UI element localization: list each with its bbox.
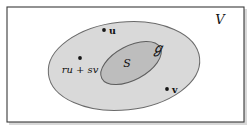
inner-subspace-label: S <box>123 57 131 70</box>
point-u-label: u <box>109 25 116 36</box>
point-u-dot <box>102 28 106 32</box>
outer-subspace-label: ℊ <box>151 40 165 57</box>
point-ru-sv-dot <box>78 56 82 60</box>
ambient-space-label: V <box>215 12 226 27</box>
linear-combination-label: ru + sv <box>62 64 99 75</box>
point-v-dot <box>165 87 169 91</box>
point-v-label: v <box>171 84 178 95</box>
diagram-canvas: u v ru + sv ℊ S V <box>0 0 250 133</box>
subspace-diagram-figure: u v ru + sv ℊ S V <box>0 0 250 133</box>
